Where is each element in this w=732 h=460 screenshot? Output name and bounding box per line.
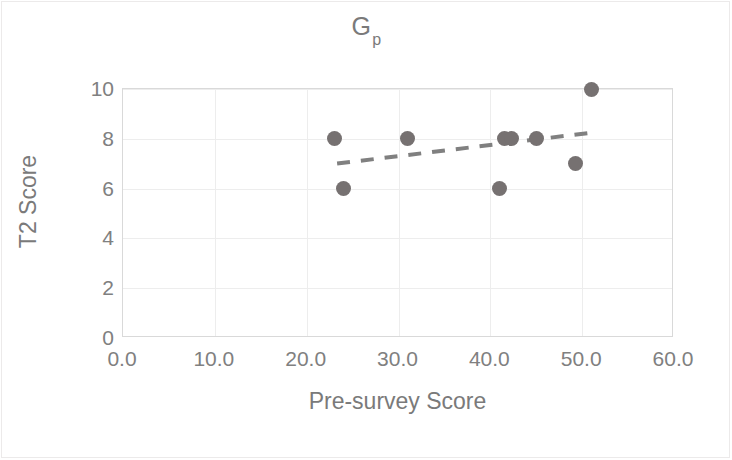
- x-axis-title: Pre-survey Score: [122, 388, 673, 415]
- x-axis-tick-label: 50.0: [536, 348, 626, 369]
- x-axis-tick-label: 0.0: [77, 348, 167, 369]
- chart-title-text: G: [352, 12, 372, 40]
- x-axis-tick-label: 20.0: [261, 348, 351, 369]
- data-point: [529, 131, 544, 146]
- y-axis-tick-labels: 0246810: [62, 88, 114, 337]
- y-axis-tick-label: 10: [68, 78, 114, 99]
- plot-inner: [123, 89, 672, 336]
- x-axis-tick-label: 10.0: [169, 348, 259, 369]
- x-axis-tick-labels: 0.010.020.030.040.050.060.0: [122, 348, 673, 378]
- y-axis-tick-label: 0: [68, 327, 114, 348]
- trendline: [123, 89, 672, 336]
- x-axis-tick-label: 30.0: [353, 348, 443, 369]
- data-point: [584, 82, 599, 97]
- chart-title-subscript: p: [372, 31, 381, 48]
- x-axis-tick-label: 40.0: [444, 348, 534, 369]
- plot-area: [122, 88, 673, 337]
- y-axis-tick-label: 8: [68, 127, 114, 148]
- y-axis-tick-label: 4: [68, 227, 114, 248]
- y-axis-tick-label: 6: [68, 177, 114, 198]
- chart-figure: Gp T2 Score 0246810 0.010.020.030.040.05…: [0, 0, 732, 460]
- data-point: [327, 131, 342, 146]
- data-point: [336, 181, 351, 196]
- y-axis-title: T2 Score: [15, 122, 42, 282]
- y-axis-tick-label: 2: [68, 277, 114, 298]
- trendline-segment: [337, 132, 595, 163]
- chart-title: Gp: [0, 14, 732, 44]
- x-axis-tick-label: 60.0: [628, 348, 718, 369]
